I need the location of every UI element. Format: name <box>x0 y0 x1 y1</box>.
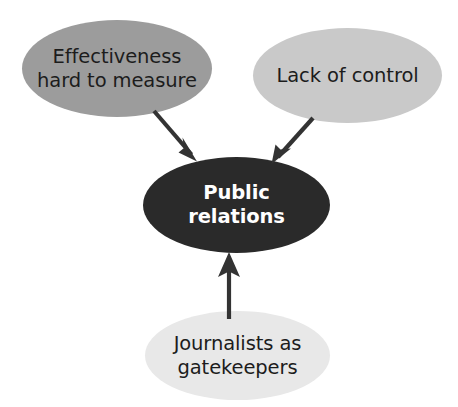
node-journalists-as-gatekeepers[interactable] <box>145 311 330 400</box>
diagram-svg <box>0 0 458 407</box>
node-public-relations[interactable] <box>143 157 330 253</box>
diagram-canvas: Effectiveness hard to measure Lack of co… <box>0 0 458 407</box>
arrow-effectiveness-to-pr <box>154 111 197 162</box>
arrow-journalists-to-pr <box>218 252 240 319</box>
arrow-lack-of-control-to-pr <box>272 118 314 164</box>
node-lack-of-control[interactable] <box>253 28 442 123</box>
node-effectiveness-hard-to-measure[interactable] <box>22 20 212 117</box>
